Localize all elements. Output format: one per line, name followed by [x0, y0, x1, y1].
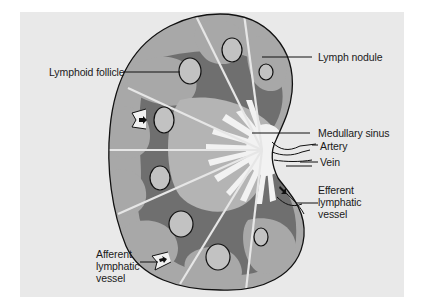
vein-line	[274, 160, 312, 162]
label-lymph-nodule: Lymph nodule	[318, 51, 382, 63]
label-lymphoid-follicle: Lymphoid follicle	[49, 66, 125, 78]
artery-line	[272, 142, 316, 149]
follicle-6	[169, 211, 193, 237]
label-efferent-lymphatic-vessel: Efferent lymphatic vessel	[318, 184, 378, 220]
follicle-5	[150, 166, 170, 190]
label-afferent-lymphatic-vessel: Afferent lymphatic vessel	[96, 248, 156, 284]
lymph-node-diagram	[0, 0, 428, 308]
follicle-2	[222, 38, 242, 62]
label-vein: Vein	[320, 156, 340, 168]
follicle-1	[179, 58, 201, 84]
follicle-8	[254, 228, 268, 246]
follicle-3	[259, 64, 273, 80]
artery-branch	[272, 150, 310, 155]
follicle-4	[154, 107, 174, 133]
label-medullary-sinus: Medullary sinus	[318, 127, 389, 139]
follicle-7	[206, 244, 230, 270]
label-artery: Artery	[320, 140, 347, 152]
